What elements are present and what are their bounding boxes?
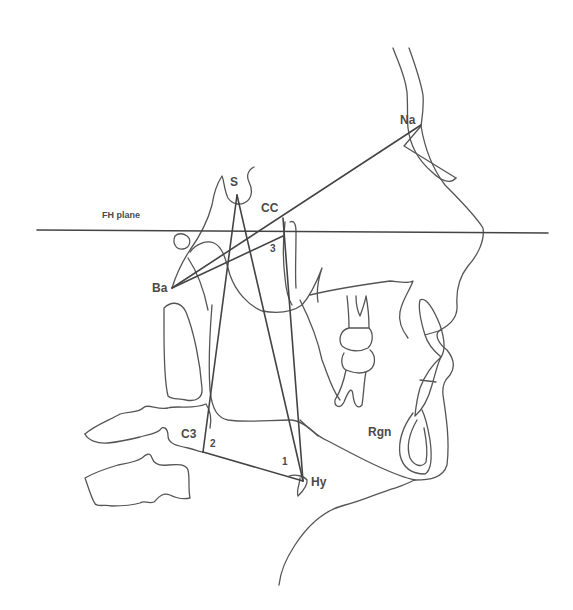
s-label: S [230, 175, 238, 189]
soft-tissue-profile [279, 48, 483, 585]
fh-plane-line [37, 230, 548, 233]
cephalometric-diagram: FH plane Na S CC Ba C3 Hy Rgn 3 2 1 [0, 0, 573, 610]
fh-plane-label: FH plane [102, 210, 140, 220]
sella-turcica [172, 167, 254, 288]
upper-incisor [419, 299, 444, 357]
hy-label: Hy [311, 475, 327, 489]
angle-2-label: 2 [210, 438, 216, 449]
cc-hy-line [283, 218, 303, 481]
lower-incisor [400, 357, 441, 474]
labels: FH plane Na S CC Ba C3 Hy Rgn 3 2 1 [102, 113, 416, 489]
condyle-region [188, 242, 322, 312]
ba-label: Ba [152, 281, 168, 295]
upper-molar [340, 296, 372, 351]
c3-label: C3 [181, 427, 197, 441]
angle-1-label: 1 [282, 456, 288, 467]
cervical-vertebrae [85, 303, 211, 506]
rgn-label: Rgn [368, 425, 391, 439]
reference-lines [37, 125, 548, 481]
c3-hy-line [203, 452, 303, 481]
angle-3-label: 3 [270, 243, 276, 254]
lower-molar [335, 350, 375, 407]
ba-na-line [172, 125, 421, 288]
cc-label: CC [261, 201, 279, 215]
mandible [209, 300, 340, 436]
orbit-contour [284, 221, 297, 305]
s-hy-line [237, 195, 303, 481]
na-label: Na [400, 113, 416, 127]
s-c3-line [203, 195, 237, 452]
